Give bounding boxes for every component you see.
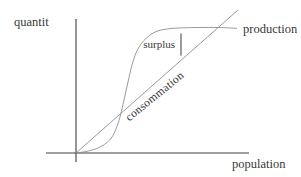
production-consommation-diagram: quantit population production consommati…	[0, 0, 301, 177]
plot-svg: quantit population production consommati…	[0, 0, 301, 177]
consommation-label: consommation	[123, 69, 186, 123]
y-axis-label: quantit	[14, 15, 49, 29]
x-axis-label: population	[232, 157, 286, 171]
production-label: production	[243, 22, 298, 36]
surplus-label: surplus	[143, 38, 175, 50]
